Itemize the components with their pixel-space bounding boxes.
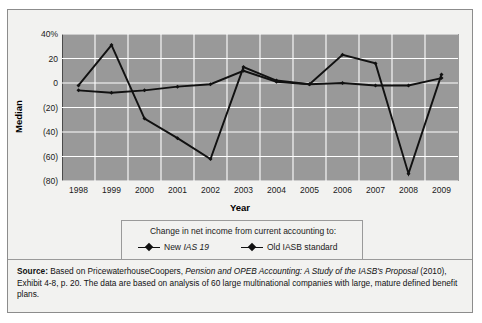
legend-marker-icon-old-iasb-standard xyxy=(241,243,263,252)
legend-entry-new-ias-19: New IAS 19 xyxy=(138,242,209,252)
y-tick-label: 20 xyxy=(12,54,58,64)
figure-container: Median 40%200(20)(40)(60)(80) 1998199920… xyxy=(7,9,473,313)
legend-entry-old-iasb-standard: Old IASB standard xyxy=(241,242,337,252)
x-axis-title: Year xyxy=(8,202,472,213)
x-axis-tick-labels: 1998199920002001200220032004200520062007… xyxy=(62,10,462,210)
legend-title: Change in net income from current accoun… xyxy=(122,226,364,236)
chart-legend: Change in net income from current accoun… xyxy=(121,220,363,260)
legend-marker-icon-new-ias-19 xyxy=(138,243,160,252)
x-tick-label: 2009 xyxy=(422,185,462,195)
y-tick-label: 0 xyxy=(12,78,58,88)
legend-label-new-ias-19: New IAS 19 xyxy=(164,242,209,252)
source-note-text: Source: Based on PricewaterhouseCoopers,… xyxy=(17,266,461,301)
legend-label-old-iasb-standard: Old IASB standard xyxy=(267,242,337,252)
chart-area: Median 40%200(20)(40)(60)(80) 1998199920… xyxy=(8,10,472,252)
source-note-box: Source: Based on PricewaterhouseCoopers,… xyxy=(8,259,472,312)
y-tick-label: (60) xyxy=(12,152,58,162)
y-tick-label: (80) xyxy=(12,176,58,186)
y-tick-label: (20) xyxy=(12,103,58,113)
y-tick-label: 40% xyxy=(12,29,58,39)
y-tick-label: (40) xyxy=(12,127,58,137)
y-axis-tick-labels: 40%200(20)(40)(60)(80) xyxy=(8,34,58,181)
